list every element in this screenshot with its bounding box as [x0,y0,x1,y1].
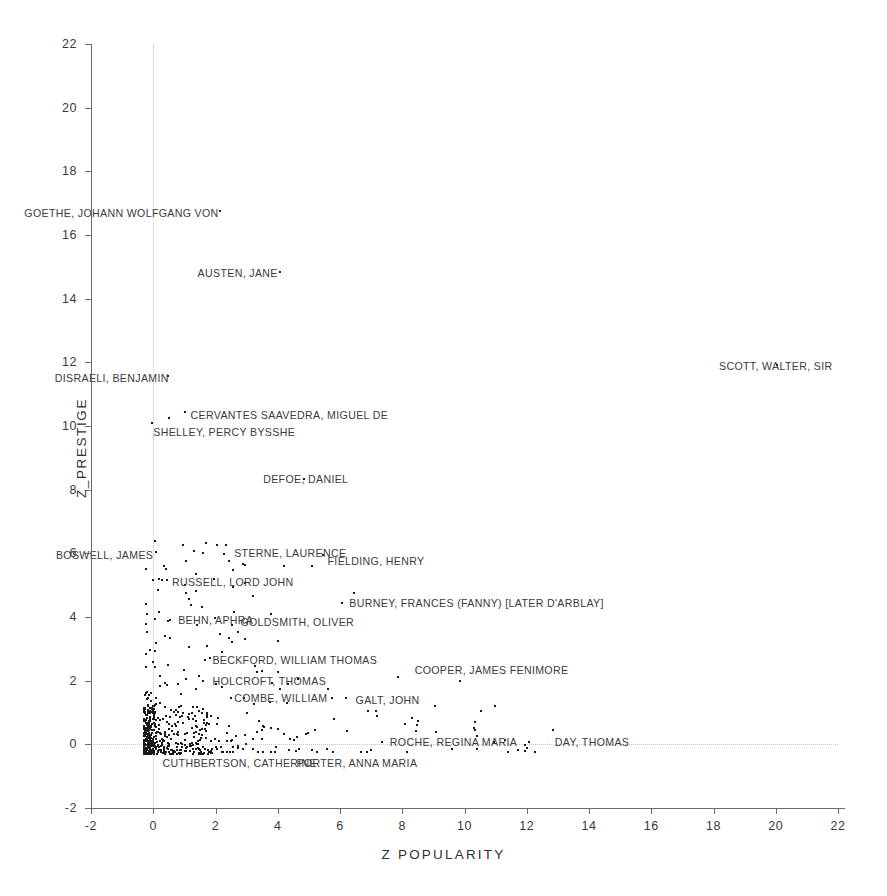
data-point-cluster [198,733,200,735]
data-point-cluster [202,708,204,710]
data-point-cluster [147,709,149,711]
data-point-cluster [147,726,149,728]
data-point-cluster [216,748,218,750]
data-point-cluster [376,715,378,717]
data-point-cluster [159,685,161,687]
data-point-cluster [175,725,177,727]
data-point-cluster [205,737,207,739]
data-point-labeled [219,210,221,212]
data-point-cluster [188,598,190,600]
data-point-cluster [185,750,187,752]
data-point-cluster [270,727,272,729]
data-point-cluster [526,747,528,749]
data-point-cluster [148,694,150,696]
data-point-cluster [230,740,232,742]
data-point-cluster [435,731,437,733]
data-point-cluster [151,711,153,713]
data-point-cluster [257,751,259,753]
data-point-cluster [360,751,362,753]
data-point-cluster [149,741,151,743]
data-point-cluster [155,735,157,737]
data-point-cluster [151,707,153,709]
y-tick-label: 22 [0,37,77,51]
data-point-cluster [168,734,170,736]
data-point-cluster [534,751,536,753]
y-axis-line [91,44,92,809]
data-point-cluster [168,723,170,725]
data-point-labeled [151,422,153,424]
data-point-cluster [275,746,277,748]
data-point-cluster [158,728,160,730]
data-point-cluster [205,730,207,732]
x-tick-label: 0 [149,819,157,833]
data-point-cluster [155,746,157,748]
data-point-cluster [221,751,223,753]
data-point-cluster [181,743,183,745]
data-point-cluster [298,748,300,750]
data-point-cluster [193,550,195,552]
data-point-cluster [220,746,222,748]
x-tick-mark [216,808,217,814]
data-point-cluster [191,727,193,729]
data-point-cluster [156,741,158,743]
data-point-cluster [195,688,197,690]
y-tick-mark [85,108,91,109]
data-point-cluster [182,544,184,546]
point-label: ROCHE, REGINA MARIA [390,736,517,748]
data-point-cluster [205,542,207,544]
data-point-labeled [552,729,554,731]
data-point-cluster [152,661,154,663]
x-tick-mark [838,808,839,814]
data-point-labeled [166,579,168,581]
data-point-cluster [184,744,186,746]
data-point-cluster [150,700,152,702]
data-point-cluster [507,751,509,753]
data-point-cluster [252,748,254,750]
x-tick-mark [278,808,279,814]
data-point-cluster [167,748,169,750]
data-point-labeled [230,697,232,699]
data-point-cluster [181,746,183,748]
y-tick-label: 20 [0,101,77,115]
data-point-cluster [146,631,148,633]
data-point-cluster [191,712,193,714]
data-point-cluster [154,540,156,542]
y-axis-title: Z_PRESTIGE [74,398,89,498]
data-point-cluster [160,733,162,735]
y-tick-label: 8 [0,483,77,497]
point-label: FIELDING, HENRY [328,555,425,567]
data-point-cluster [165,568,167,570]
x-tick-label: 20 [768,819,783,833]
data-point-cluster [244,638,246,640]
data-point-cluster [186,732,188,734]
point-label: COMBE, WILLIAM [234,692,327,704]
point-label: RUSSELL, LORD JOHN [172,576,294,588]
x-tick-label: 4 [274,819,282,833]
data-point-cluster [434,705,436,707]
data-point-cluster [235,735,237,737]
data-point-cluster [168,745,170,747]
data-point-cluster [216,544,218,546]
data-point-cluster [262,725,264,727]
data-point-cluster [164,706,166,708]
data-point-cluster [151,732,153,734]
y-tick-label: 6 [0,546,77,560]
data-point-cluster [229,751,231,753]
data-point-cluster [167,664,169,666]
data-point-cluster [170,738,172,740]
data-point-cluster [203,752,205,754]
data-point-cluster [174,723,176,725]
point-label: CUTHBERTSON, CATHERINE [163,757,317,769]
data-point-cluster [149,649,151,651]
x-tick-label: 14 [581,819,596,833]
data-point-cluster [173,733,175,735]
y-tick-mark [85,362,91,363]
data-point-cluster [262,751,264,753]
data-point-cluster [152,740,154,742]
x-tick-label: 18 [706,819,721,833]
point-label: AUSTEN, JANE [198,267,278,279]
data-point-cluster [311,565,313,567]
data-point-cluster [162,718,164,720]
x-tick-mark [340,808,341,814]
data-point-cluster [256,731,258,733]
